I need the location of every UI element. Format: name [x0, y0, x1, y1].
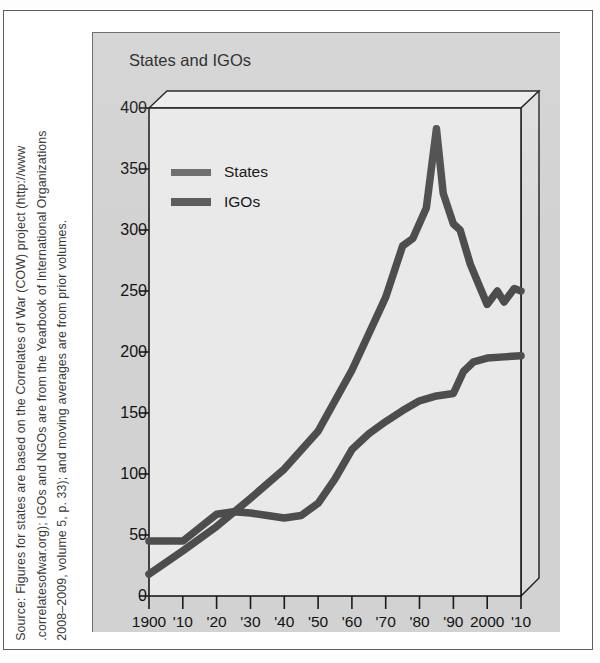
legend-label-states: States — [224, 163, 268, 181]
source-line-2: .correlatesofwar.org); IGOs and NGOs are… — [32, 21, 53, 641]
legend-label-igos: IGOs — [224, 193, 260, 211]
source-line-1: Source: Figures for states are based on … — [11, 21, 32, 641]
source-caption: Source: Figures for states are based on … — [11, 21, 73, 641]
chart-legend: States IGOs — [171, 157, 268, 217]
x-tick-label: '20 — [207, 613, 227, 631]
x-tick-label: '10 — [173, 613, 193, 631]
x-tick-label: '50 — [308, 613, 328, 631]
x-tick-label: 1900 — [132, 613, 166, 631]
legend-swatch-igos — [171, 198, 211, 206]
figure-page: Source: Figures for states are based on … — [0, 0, 600, 663]
x-tick-label: '90 — [443, 613, 463, 631]
x-tick-label: '60 — [342, 613, 362, 631]
x-tick-label: '70 — [376, 613, 396, 631]
x-axis-labels: 1900'10'20'30'40'50'60'70'80'902000'10 — [93, 33, 561, 633]
x-tick-label: '80 — [409, 613, 429, 631]
x-tick-label: '40 — [274, 613, 294, 631]
legend-item-states: States — [171, 157, 268, 187]
legend-item-igos: IGOs — [171, 187, 268, 217]
chart-panel: States and IGOs — [92, 32, 560, 632]
x-tick-label: '30 — [240, 613, 260, 631]
legend-swatch-states — [171, 169, 211, 176]
plot-area: 050100150200250300350400 1900'10'20'30'4… — [93, 33, 561, 633]
source-line-3: 2008–2009, volume 5, p. 33); and moving … — [52, 21, 73, 641]
x-tick-label: '10 — [511, 613, 531, 631]
x-tick-label: 2000 — [470, 613, 504, 631]
